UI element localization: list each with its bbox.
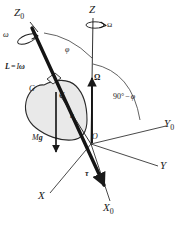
label-omega-precession-small: Ω	[107, 22, 112, 29]
label-z-axis: Z	[89, 4, 95, 15]
label-z0-subscript: 0	[20, 12, 24, 21]
label-omega-precession-vector: Ω	[94, 74, 100, 82]
label-L: L	[5, 62, 10, 71]
label-angular-momentum: L=Iω	[5, 63, 25, 71]
label-torque-tau: τ	[85, 170, 89, 178]
label-origin-o: O	[92, 133, 98, 141]
label-z0-axis: Z0	[14, 7, 24, 21]
figure-canvas	[0, 0, 188, 225]
label-x0-axis: X0	[103, 202, 114, 216]
label-y0-axis: Y0	[164, 118, 174, 132]
label-minus-sign: −	[125, 92, 130, 101]
label-omega-bold: ω	[19, 62, 25, 71]
label-mass-m: M	[32, 133, 39, 142]
label-phi-complement: φ	[131, 92, 135, 101]
label-x-axis: X	[38, 190, 45, 201]
label-weight-mg: Mg	[32, 134, 43, 142]
label-equals: =	[11, 62, 16, 71]
gyroscope-figure: Z0 ω Z Ω φ L=Iω G Ω C b 90°−φ Mg O Y0 Y …	[0, 0, 188, 225]
label-center-of-mass-g: G	[29, 85, 35, 93]
label-ninety-deg: 90°	[113, 92, 124, 101]
axis-line-y0	[91, 126, 166, 144]
label-y0-subscript: 0	[170, 123, 174, 132]
label-gravity-g: g	[39, 133, 43, 142]
label-omega-spin: ω	[3, 31, 9, 39]
label-angle-ninety-minus-phi: 90°−φ	[113, 93, 135, 101]
label-distance-b: b	[70, 112, 74, 120]
axis-line-x0	[91, 144, 110, 201]
label-angle-phi: φ	[65, 46, 69, 54]
label-x0-subscript: 0	[110, 207, 114, 216]
label-y-axis: Y	[160, 160, 166, 171]
axis-line-y	[91, 144, 158, 166]
label-point-c: C	[59, 92, 64, 100]
